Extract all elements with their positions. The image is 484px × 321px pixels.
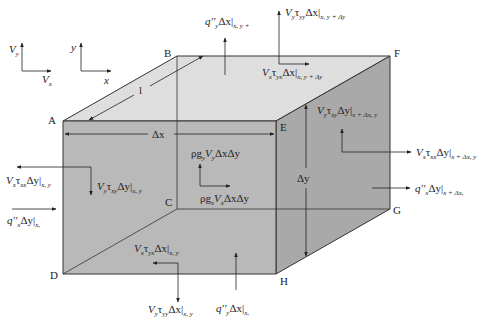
velocity-axis-vx-label: Vx [42,73,53,88]
left-normal-stress-label: VxτxxΔy|x, y [6,174,52,189]
top-heat-flux-label: q′′yΔx|x, y + [205,15,250,30]
control-volume-diagram: Vy Vx y x A B C D E F G H l Δx Δy q′′yΔx… [0,0,484,321]
right-normal-stress-label: VxτxxΔy|x + Δx, y [416,146,477,161]
left-heat-flux-label: q′′xΔy|x, [7,214,40,229]
coordinate-axes: y x [70,41,111,86]
corner-label-g: G [393,204,401,216]
top-normal-stress-label: VyτyyΔx|x, y + Δy [285,6,346,21]
width-label: Δx [152,128,165,140]
depth-label: l [139,84,142,96]
right-heat-flux-label: q′′xΔy|x + Δx, [415,182,464,197]
corner-label-b: B [164,47,171,59]
velocity-axes: Vy Vx [9,43,53,88]
corner-label-d: D [50,269,58,281]
corner-label-e: E [280,121,287,133]
velocity-axis-vy-label: Vy [9,43,20,58]
corner-label-a: A [48,114,56,126]
coordinate-axis-x-label: x [103,74,109,86]
corner-label-f: F [394,47,400,59]
height-label: Δy [297,172,310,184]
bottom-heat-flux-label: q′′yΔx|x, [216,302,249,317]
corner-label-h: H [280,275,288,287]
corner-label-c: C [165,196,172,208]
left-heat-flux: q′′xΔy|x, [7,209,56,229]
coordinate-axis-y-label: y [70,41,76,53]
bottom-normal-stress-label: VyτyyΔx|x, y [148,303,194,318]
